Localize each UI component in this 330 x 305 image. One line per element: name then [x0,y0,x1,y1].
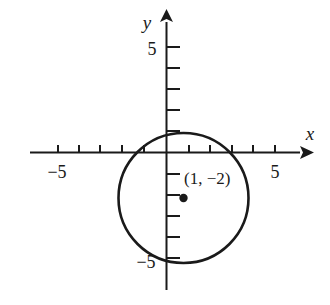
y-axis-label: y [141,12,152,33]
y-axis-arrowhead [160,9,173,22]
axes-group [30,9,314,290]
tick-label-x-5: 5 [271,162,280,182]
tick-label-y-5: 5 [148,39,157,59]
figure-container: y x 5 −5 −5 5 (1, −2) [0,0,330,305]
x-axis-arrowhead [300,146,314,159]
center-point-dot [179,194,187,202]
coordinate-plane-graph: y x 5 −5 −5 5 (1, −2) [0,0,330,305]
tick-label-y-neg5: −5 [136,252,155,272]
tick-label-x-neg5: −5 [47,162,66,182]
x-axis-label: x [305,123,315,144]
center-point-label: (1, −2) [184,169,230,188]
